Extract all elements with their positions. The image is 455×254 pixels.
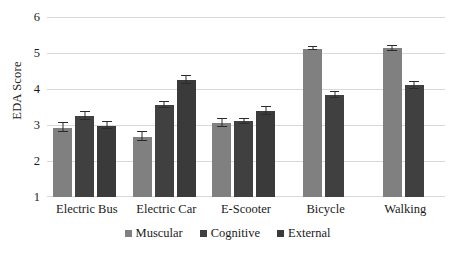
bar[interactable] bbox=[256, 111, 275, 197]
error-bar-cap-top bbox=[80, 111, 90, 112]
bar-fill bbox=[212, 123, 231, 197]
error-bar-cap-top bbox=[387, 45, 397, 46]
error-bar-cap-bottom bbox=[261, 114, 271, 115]
y-axis-tick-label: 1 bbox=[34, 190, 40, 205]
x-axis-tick-label: Bicycle bbox=[286, 202, 366, 217]
bar-fill bbox=[133, 137, 152, 197]
error-bar-cap-bottom bbox=[387, 50, 397, 51]
legend-item[interactable]: Cognitive bbox=[200, 226, 260, 241]
bar-fill bbox=[303, 49, 322, 197]
error-bar-cap-top bbox=[261, 106, 271, 107]
y-axis-tick-label: 3 bbox=[34, 118, 40, 133]
bar-chart-figure: EDA Score 123456 Electric BusElectric Ca… bbox=[0, 0, 455, 254]
legend-swatch-icon bbox=[125, 230, 132, 237]
error-bar-cap-top bbox=[137, 131, 147, 132]
bar-fill bbox=[177, 80, 196, 197]
bar-fill bbox=[234, 121, 253, 197]
bar-fill bbox=[53, 128, 72, 197]
bar[interactable] bbox=[303, 49, 322, 197]
error-bar-cap-top bbox=[308, 46, 318, 47]
bar[interactable] bbox=[53, 128, 72, 197]
error-bar-cap-bottom bbox=[409, 88, 419, 89]
legend-label: Cognitive bbox=[211, 226, 260, 241]
bar[interactable] bbox=[155, 105, 174, 197]
error-bar-cap-bottom bbox=[137, 140, 147, 141]
bar-fill bbox=[97, 126, 116, 197]
bar[interactable] bbox=[383, 48, 402, 197]
y-axis-title: EDA Score bbox=[10, 41, 25, 141]
plot-area: 123456 bbox=[47, 17, 445, 197]
y-axis-tick-label: 5 bbox=[34, 46, 40, 61]
bar[interactable] bbox=[325, 95, 344, 197]
bar-group bbox=[206, 17, 286, 197]
error-bar-cap-top bbox=[58, 122, 68, 123]
bar[interactable] bbox=[177, 80, 196, 197]
legend-swatch-icon bbox=[277, 230, 284, 237]
bar-fill bbox=[256, 111, 275, 197]
legend-label: Muscular bbox=[136, 226, 183, 241]
error-bar-cap-bottom bbox=[330, 97, 340, 98]
bar-fill bbox=[325, 95, 344, 197]
error-bar-cap-top bbox=[239, 118, 249, 119]
error-bar-cap-bottom bbox=[102, 128, 112, 129]
bar-group bbox=[365, 17, 445, 197]
bar[interactable] bbox=[75, 116, 94, 197]
bar-fill bbox=[75, 116, 94, 197]
error-bar-cap-top bbox=[181, 75, 191, 76]
x-axis-tick-label: E-Scooter bbox=[206, 202, 286, 217]
x-axis-tick-label: Electric Car bbox=[127, 202, 207, 217]
error-bar-cap-top bbox=[330, 91, 340, 92]
bar-fill bbox=[405, 85, 424, 197]
error-bar-cap-bottom bbox=[80, 119, 90, 120]
error-bar-cap-bottom bbox=[308, 49, 318, 50]
bar[interactable] bbox=[133, 137, 152, 197]
error-bar-cap-top bbox=[409, 81, 419, 82]
bar-group bbox=[286, 17, 366, 197]
error-bar-cap-bottom bbox=[181, 83, 191, 84]
error-bar-cap-top bbox=[102, 121, 112, 122]
y-axis-tick-label: 6 bbox=[34, 10, 40, 25]
error-bar-cap-top bbox=[217, 118, 227, 119]
error-bar-cap-bottom bbox=[58, 131, 68, 132]
legend-item[interactable]: Muscular bbox=[125, 226, 183, 241]
bar[interactable] bbox=[405, 85, 424, 197]
x-axis-tick-label: Electric Bus bbox=[47, 202, 127, 217]
legend-item[interactable]: External bbox=[277, 226, 330, 241]
bar-group bbox=[47, 17, 127, 197]
bar-group bbox=[127, 17, 207, 197]
bar-fill bbox=[383, 48, 402, 197]
y-axis-tick-label: 4 bbox=[34, 82, 40, 97]
y-axis-tick-label: 2 bbox=[34, 154, 40, 169]
error-bar-cap-bottom bbox=[217, 126, 227, 127]
error-bar-cap-top bbox=[159, 101, 169, 102]
bar[interactable] bbox=[97, 126, 116, 197]
x-axis-tick-label: Walking bbox=[365, 202, 445, 217]
error-bar-cap-bottom bbox=[239, 123, 249, 124]
bar[interactable] bbox=[234, 121, 253, 197]
legend-label: External bbox=[288, 226, 330, 241]
legend-swatch-icon bbox=[200, 230, 207, 237]
bar-fill bbox=[155, 105, 174, 197]
chart-legend: MuscularCognitiveExternal bbox=[0, 226, 455, 241]
error-bar-cap-bottom bbox=[159, 107, 169, 108]
bar[interactable] bbox=[212, 123, 231, 197]
